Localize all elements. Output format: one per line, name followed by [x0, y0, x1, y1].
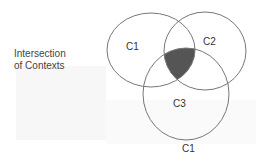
set-c1-label: C1 — [126, 41, 139, 52]
venn-diagram: C1 C2 C3 C1 — [0, 0, 262, 162]
set-c2-label: C2 — [203, 36, 216, 47]
footer-label: C1 — [182, 143, 195, 154]
set-c3-label: C3 — [173, 98, 186, 109]
